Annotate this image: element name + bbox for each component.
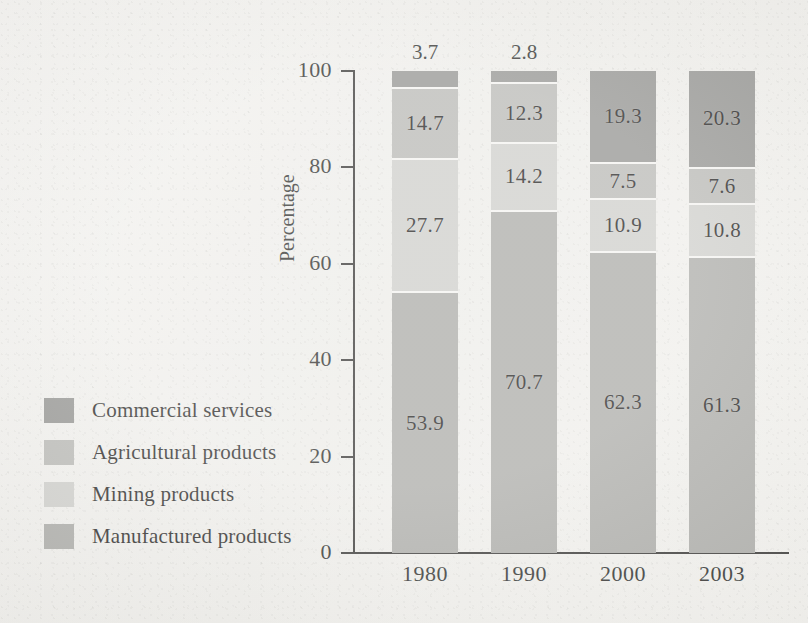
segment-value-label: 7.5 bbox=[609, 169, 636, 194]
legend-item[interactable]: Commercial services bbox=[44, 392, 292, 429]
y-axis-tick bbox=[341, 70, 354, 72]
legend-item[interactable]: Agricultural products bbox=[44, 434, 292, 471]
legend-label: Mining products bbox=[92, 482, 234, 507]
segment-value-label: 27.7 bbox=[406, 213, 444, 238]
segment-value-label: 53.9 bbox=[406, 411, 444, 436]
segment-value-label-outside: 3.7 bbox=[392, 40, 458, 65]
segment-value-label: 62.3 bbox=[604, 390, 642, 415]
segment-value-label: 10.9 bbox=[604, 213, 642, 238]
bar-segment[interactable]: 27.7 bbox=[392, 160, 458, 294]
bar-segment[interactable]: 7.6 bbox=[689, 169, 755, 206]
legend-label: Manufactured products bbox=[92, 524, 292, 549]
bar-segment[interactable]: 20.3 bbox=[689, 71, 755, 169]
legend-item[interactable]: Manufactured products bbox=[44, 518, 292, 555]
legend-swatch bbox=[44, 482, 74, 507]
bar-segment[interactable]: 3.7 bbox=[392, 71, 458, 89]
bar-1990[interactable]: 2.812.314.270.7 bbox=[491, 71, 557, 553]
segment-value-label: 10.8 bbox=[703, 218, 741, 243]
bar-segment[interactable]: 53.9 bbox=[392, 293, 458, 553]
legend-swatch bbox=[44, 398, 74, 423]
x-axis-tick-label: 1990 bbox=[476, 561, 572, 587]
segment-value-label: 61.3 bbox=[703, 393, 741, 418]
segment-value-label: 70.7 bbox=[505, 370, 543, 395]
bar-segment[interactable]: 61.3 bbox=[689, 258, 755, 553]
y-axis-tick bbox=[341, 456, 354, 458]
segment-value-label: 14.2 bbox=[505, 164, 543, 189]
segment-value-label-outside: 2.8 bbox=[491, 40, 557, 65]
y-axis-tick bbox=[341, 263, 354, 265]
bar-segment[interactable]: 19.3 bbox=[590, 71, 656, 164]
y-axis-tick bbox=[341, 359, 354, 361]
bar-1980[interactable]: 3.714.727.753.9 bbox=[392, 71, 458, 553]
y-axis-line bbox=[353, 70, 355, 554]
bar-segment[interactable]: 70.7 bbox=[491, 212, 557, 553]
chart-legend: Commercial servicesAgricultural products… bbox=[44, 392, 292, 560]
bar-2000[interactable]: 19.37.510.962.3 bbox=[590, 71, 656, 553]
y-axis-tick-label: 100 bbox=[258, 57, 332, 81]
bar-segment[interactable]: 14.2 bbox=[491, 144, 557, 212]
bar-segment[interactable]: 7.5 bbox=[590, 164, 656, 200]
bar-segment[interactable]: 10.9 bbox=[590, 200, 656, 253]
bar-segment[interactable]: 2.8 bbox=[491, 71, 557, 84]
y-axis-tick bbox=[341, 166, 354, 168]
x-axis-tick-label: 1980 bbox=[377, 561, 473, 587]
x-axis-tick-label: 2000 bbox=[575, 561, 671, 587]
segment-value-label: 19.3 bbox=[604, 104, 642, 129]
bar-segment[interactable]: 12.3 bbox=[491, 84, 557, 143]
legend-label: Commercial services bbox=[92, 398, 273, 423]
legend-item[interactable]: Mining products bbox=[44, 476, 292, 513]
y-axis-title: Percentage bbox=[276, 174, 299, 262]
y-axis-tick-value: 40 bbox=[262, 346, 332, 372]
bar-segment[interactable]: 10.8 bbox=[689, 205, 755, 257]
y-axis-tick-label: 40 bbox=[258, 346, 332, 370]
y-axis-tick-value: 100 bbox=[262, 57, 332, 83]
legend-swatch bbox=[44, 524, 74, 549]
legend-swatch bbox=[44, 440, 74, 465]
segment-value-label: 7.6 bbox=[708, 174, 735, 199]
bar-segment[interactable]: 62.3 bbox=[590, 253, 656, 553]
x-axis-tick-label: 2003 bbox=[674, 561, 770, 587]
segment-value-label: 20.3 bbox=[703, 106, 741, 131]
legend-label: Agricultural products bbox=[92, 440, 276, 465]
bar-segment[interactable]: 14.7 bbox=[392, 89, 458, 160]
stacked-bar-chart: 020406080100 Percentage 3.714.727.753.93… bbox=[0, 0, 808, 623]
segment-value-label: 12.3 bbox=[505, 101, 543, 126]
y-axis-tick bbox=[341, 552, 354, 554]
bar-2003[interactable]: 20.37.610.861.3 bbox=[689, 71, 755, 553]
segment-value-label: 14.7 bbox=[406, 111, 444, 136]
